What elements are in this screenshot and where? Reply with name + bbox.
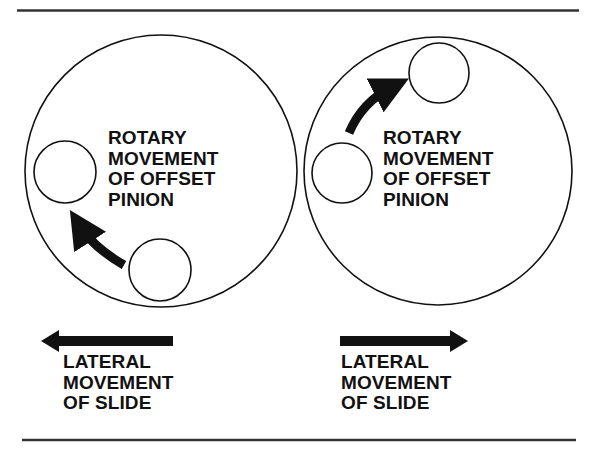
left-lateral-label-line-3: OF SLIDE (63, 393, 174, 414)
right-lateral-label-line-1: LATERAL (341, 352, 452, 373)
left-lateral-label-line-2: MOVEMENT (63, 373, 174, 394)
right-lateral-label-line-2: MOVEMENT (341, 373, 452, 394)
left-rotary-label-line-4: PINION (108, 190, 219, 211)
left-lateral-arrow-icon (41, 330, 173, 352)
left-pinion-end-circle (34, 141, 96, 203)
right-lateral-label-line-3: OF SLIDE (341, 393, 452, 414)
right-pinion-start-circle (312, 143, 372, 203)
right-pinion-end-circle (409, 43, 469, 103)
left-rotary-label-line-2: MOVEMENT (108, 149, 219, 170)
right-rotary-label-line-1: ROTARY (383, 128, 494, 149)
left-rotary-label-line-3: OF OFFSET (108, 169, 219, 190)
pinion-slide-diagram: ROTARY MOVEMENT OF OFFSET PINION LATERAL… (0, 0, 591, 451)
right-rotary-label: ROTARY MOVEMENT OF OFFSET PINION (383, 128, 494, 210)
right-rotary-label-line-4: PINION (383, 190, 494, 211)
left-rotary-label: ROTARY MOVEMENT OF OFFSET PINION (108, 128, 219, 210)
left-rotary-label-line-1: ROTARY (108, 128, 219, 149)
right-lateral-arrow-icon (340, 330, 468, 352)
left-lateral-label: LATERAL MOVEMENT OF SLIDE (63, 352, 174, 414)
right-rotary-label-line-3: OF OFFSET (383, 169, 494, 190)
left-rotation-arrow-icon (80, 226, 124, 265)
right-rotary-label-line-2: MOVEMENT (383, 149, 494, 170)
left-lateral-label-line-1: LATERAL (63, 352, 174, 373)
right-lateral-label: LATERAL MOVEMENT OF SLIDE (341, 352, 452, 414)
left-pinion-start-circle (129, 239, 191, 301)
